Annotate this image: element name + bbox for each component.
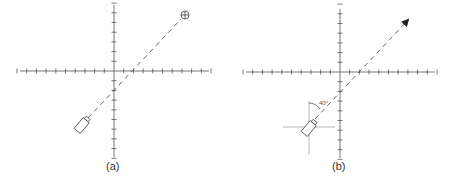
- panel-a: [17, 3, 211, 158]
- angle-label: 40°: [319, 100, 328, 106]
- beam-a: [88, 19, 181, 118]
- beam-arrow-b: [315, 20, 408, 119]
- panel-b: [243, 4, 437, 159]
- crosshair-target-icon: [181, 11, 189, 19]
- flashlight-icon: [301, 118, 318, 136]
- coordinate-axes-b: [243, 4, 437, 159]
- caption-b: (b): [332, 160, 345, 172]
- figure-canvas: [0, 0, 449, 181]
- coordinate-axes-a: [17, 3, 211, 158]
- flashlight-icon: [74, 115, 91, 133]
- caption-a: (a): [106, 160, 119, 172]
